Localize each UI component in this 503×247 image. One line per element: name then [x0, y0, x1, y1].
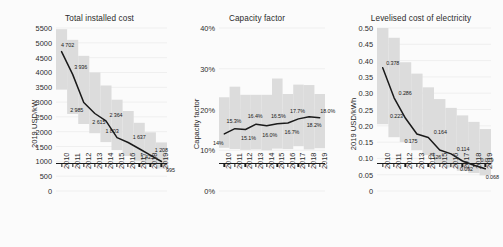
y-axis-tick-label: 2500: [36, 112, 52, 121]
x-axis-tick: 2012: [400, 163, 411, 247]
x-axis-tick: 2010: [219, 163, 230, 247]
x-axis-tick: 2010: [56, 163, 67, 247]
x-axis-tick: 2016: [283, 163, 294, 247]
chart-panel-levelised-cost-of-electricity: Levelised cost of electricity 2019 USD/k…: [333, 0, 503, 247]
range-band: [112, 100, 123, 150]
data-point-label: 17.7%: [290, 108, 305, 114]
data-point-label: 2 364: [109, 112, 122, 118]
x-axis-tick-label: 2019: [320, 153, 329, 169]
x-axis-tick: 2014: [423, 163, 434, 247]
y-axis-tick-label: 0.15: [359, 138, 373, 147]
range-band: [261, 95, 272, 150]
x-axis-tick: 2015: [272, 163, 283, 247]
data-point-label: 15.3%: [226, 118, 241, 124]
y-axis-tick-label: 2000: [36, 127, 52, 136]
x-axis: 2010201120122013201420152016201720182019: [8, 163, 173, 247]
x-axis-tick: 2013: [251, 163, 262, 247]
y-axis-label: 2019 USD/kW: [30, 99, 39, 147]
data-point-label: 2 615: [92, 119, 105, 125]
y-axis-tick-label: 3500: [36, 83, 52, 92]
x-axis-tick: 2019: [314, 163, 325, 247]
chart-title: Total installed cost: [8, 14, 173, 23]
x-axis-tick: 2014: [261, 163, 272, 247]
x-axis-tick: 2014: [100, 163, 111, 247]
data-point-label: 15.1%: [241, 135, 256, 141]
data-point-label: 0.223: [390, 113, 403, 119]
x-axis-tick: 2018: [145, 163, 156, 247]
y-axis-tick-label: 5500: [36, 24, 52, 33]
y-axis-tick-label: 0.30: [359, 89, 373, 98]
range-band: [423, 87, 434, 155]
data-point-label: 16.0%: [262, 132, 277, 138]
range-band: [240, 95, 251, 150]
data-point-label: 18.2%: [307, 122, 322, 128]
y-axis-tick-label: 40%: [200, 24, 215, 33]
y-axis-tick-label: 0.20: [359, 121, 373, 130]
x-axis-tick: 2016: [123, 163, 134, 247]
x-axis-tick: 2011: [67, 163, 78, 247]
y-axis-label: 2019 USD/kWh: [349, 97, 358, 149]
chart-panel-total-installed-cost: Total installed cost 2019 USD/kW 0500100…: [8, 0, 173, 247]
x-axis-tick: 2013: [89, 163, 100, 247]
data-point-label: 16.7%: [284, 129, 299, 135]
x-axis-tick: 2016: [445, 163, 456, 247]
x-axis-tick: 2012: [240, 163, 251, 247]
y-axis-tick-label: 0.10: [359, 154, 373, 163]
y-axis-tick-label: 10%: [200, 146, 215, 155]
data-point-label: 3 936: [74, 64, 87, 70]
chart-title: Levelised cost of electricity: [333, 14, 503, 23]
y-axis-tick-label: 4000: [36, 68, 52, 77]
y-axis-tick-label: 0.45: [359, 40, 373, 49]
x-axis-tick: 2015: [112, 163, 123, 247]
chart-title: Capacity factor: [173, 14, 333, 23]
data-point-label: 1 637: [133, 134, 146, 140]
chart-panel-capacity-factor: Capacity factor Capacity factor 0%10%20%…: [173, 0, 333, 247]
y-axis-tick-label: 0.25: [359, 105, 373, 114]
x-axis-tick: 2010: [377, 163, 388, 247]
data-point-label: 0.175: [404, 138, 417, 144]
data-point-label: 14%: [213, 140, 224, 146]
data-point-label: 0.378: [386, 60, 399, 66]
x-axis: 2010201120122013201420152016201720182019: [173, 163, 333, 247]
x-axis-tick: 2018: [304, 163, 315, 247]
x-axis-tick: 2012: [78, 163, 89, 247]
range-band: [293, 85, 304, 147]
y-axis-tick-label: 3000: [36, 98, 52, 107]
data-point-label: 16.5%: [271, 113, 286, 119]
data-point-label: 0.164: [434, 129, 447, 135]
y-axis-tick-label: 0.35: [359, 72, 373, 81]
data-point-label: 4 702: [61, 42, 74, 48]
data-point-label: 0.286: [399, 90, 412, 96]
x-axis-tick: 2015: [434, 163, 445, 247]
data-point-label: 0.114: [457, 146, 470, 152]
figure-canvas: Total installed cost 2019 USD/kW 0500100…: [0, 0, 503, 247]
y-axis-tick-label: 20%: [200, 105, 215, 114]
range-band: [67, 40, 78, 114]
x-axis-tick: 2017: [293, 163, 304, 247]
x-axis-tick: 2019: [156, 163, 167, 247]
x-axis-tick-label: 2019: [161, 153, 170, 169]
y-axis-tick-label: 0.50: [359, 24, 373, 33]
x-axis-tick: 2011: [388, 163, 399, 247]
y-axis-tick-label: 5000: [36, 38, 52, 47]
data-point-label: 1 803: [106, 128, 119, 134]
x-axis-tick: 2018: [468, 163, 479, 247]
x-axis-tick: 2011: [230, 163, 241, 247]
range-band: [377, 28, 388, 124]
y-axis-tick-label: 4500: [36, 53, 52, 62]
range-band: [400, 62, 411, 142]
data-point-label: 16.4%: [248, 113, 263, 119]
y-axis-tick-label: 0.40: [359, 56, 373, 65]
x-axis-tick: 2017: [457, 163, 468, 247]
y-axis-tick-label: 1500: [36, 142, 52, 151]
y-axis-tick-label: 30%: [200, 64, 215, 73]
x-axis-tick-label: 2019: [485, 153, 494, 169]
x-axis-tick: 2013: [411, 163, 422, 247]
x-axis-tick: 2019: [480, 163, 491, 247]
data-point-label: 2 985: [70, 107, 83, 113]
x-axis-tick: 2017: [134, 163, 145, 247]
x-axis: 2010201120122013201420152016201720182019: [333, 163, 503, 247]
